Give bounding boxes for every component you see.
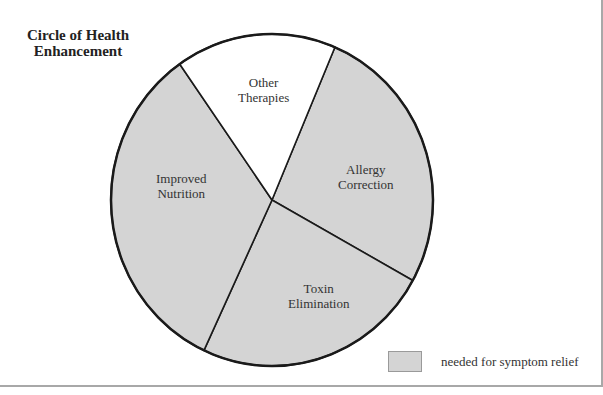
slice-label-improved-nutrition: Improved Nutrition bbox=[156, 171, 207, 201]
legend-label: needed for symptom relief bbox=[441, 354, 579, 370]
slice-label-toxin-elimination: Toxin Elimination bbox=[288, 281, 349, 311]
legend-swatch bbox=[388, 351, 422, 372]
slice-label-allergy-correction: Allergy Correction bbox=[338, 162, 394, 192]
slice-label-other-therapies: Other Therapies bbox=[238, 75, 289, 105]
chart-legend: needed for symptom relief bbox=[388, 351, 579, 372]
pie-chart bbox=[0, 0, 603, 395]
